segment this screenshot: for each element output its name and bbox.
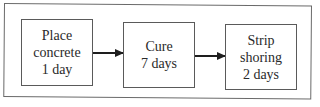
- step-label-line: Cure: [145, 38, 172, 55]
- arrow-right-icon: [93, 52, 123, 54]
- step-cure: Cure 7 days: [123, 22, 195, 88]
- arrow-right-icon: [195, 55, 225, 57]
- step-place-concrete: Place concrete 1 day: [21, 19, 93, 86]
- step-duration: 7 days: [141, 55, 177, 72]
- step-strip-shoring: Strip shoring 2 days: [225, 24, 297, 90]
- step-label-line: concrete: [33, 44, 80, 61]
- step-label-line: shoring: [240, 49, 282, 66]
- step-label-line: Place: [42, 27, 72, 44]
- step-label-line: Strip: [247, 32, 274, 49]
- step-duration: 2 days: [243, 66, 279, 83]
- step-duration: 1 day: [42, 61, 73, 78]
